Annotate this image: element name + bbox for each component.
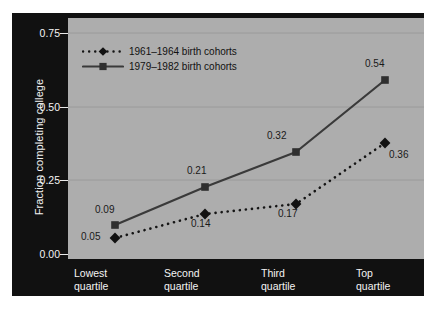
- x-tick-line2-lowest: quartile: [74, 280, 108, 293]
- x-tick-line1-lowest: Lowest: [74, 267, 108, 280]
- legend-item-1961-1964: 1961–1964 birth cohorts: [82, 44, 237, 59]
- chart-figure: Fraction completing college 0.75 0.50 0.…: [0, 0, 438, 311]
- legend-label-1979-1982: 1979–1982 birth cohorts: [129, 61, 237, 72]
- legend-item-1979-1982: 1979–1982 birth cohorts: [82, 59, 237, 74]
- series-line-1979-1982: [115, 80, 385, 225]
- series-marker-1979-1982-p2: [292, 148, 300, 156]
- chart-dark-panel: Fraction completing college 0.75 0.50 0.…: [12, 13, 424, 296]
- y-tick-mark-050: [60, 107, 68, 108]
- series-marker-1979-1982-p3: [381, 76, 389, 84]
- x-tick-line2-top: quartile: [356, 280, 390, 293]
- point-label-1961-p3: 0.36: [389, 149, 408, 160]
- point-label-1961-p0: 0.05: [81, 231, 100, 242]
- x-tick-line2-second: quartile: [164, 280, 200, 293]
- x-tick-line1-second: Second: [164, 267, 200, 280]
- point-label-1979-p0: 0.09: [95, 204, 114, 215]
- x-tick-label-second-quartile: Second quartile: [164, 267, 200, 292]
- y-tick-label-075: 0.75: [20, 27, 60, 39]
- y-tick-mark-000: [60, 254, 68, 255]
- point-label-1979-p3: 0.54: [365, 58, 384, 69]
- x-tick-label-top-quartile: Top quartile: [356, 267, 390, 292]
- x-tick-label-lowest-quartile: Lowest quartile: [74, 267, 108, 292]
- y-tick-label-025: 0.25: [20, 174, 60, 186]
- x-tick-line2-third: quartile: [261, 280, 295, 293]
- y-tick-mark-075: [60, 33, 68, 34]
- series-line-1961-1964: [115, 143, 385, 238]
- series-marker-1979-1982-p1: [201, 183, 209, 191]
- point-label-1979-p1: 0.21: [187, 165, 206, 176]
- x-tick-line1-third: Third: [261, 267, 295, 280]
- y-tick-label-000: 0.00: [20, 248, 60, 260]
- y-axis-title: Fraction completing college: [33, 57, 45, 237]
- y-tick-label-050: 0.50: [20, 101, 60, 113]
- series-marker-1979-1982-p0: [111, 221, 119, 229]
- chart-legend: 1961–1964 birth cohorts 1979–1982 birth …: [82, 44, 237, 74]
- plot-area: 1961–1964 birth cohorts 1979–1982 birth …: [68, 18, 424, 259]
- y-tick-mark-025: [60, 180, 68, 181]
- series-marker-1961-1964-p0: [110, 233, 121, 244]
- legend-marker-dotted-diamond: [82, 46, 124, 57]
- point-label-1961-p1: 0.14: [191, 218, 210, 229]
- x-tick-line1-top: Top: [356, 267, 390, 280]
- legend-marker-solid-square: [82, 61, 124, 72]
- x-tick-label-third-quartile: Third quartile: [261, 267, 295, 292]
- point-label-1961-p2: 0.17: [278, 208, 297, 219]
- point-label-1979-p2: 0.32: [267, 130, 286, 141]
- legend-label-1961-1964: 1961–1964 birth cohorts: [129, 46, 237, 57]
